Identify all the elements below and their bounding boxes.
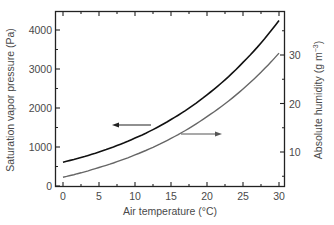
y2-tick-label: 10 — [289, 146, 301, 158]
x-tick-label: 10 — [129, 190, 141, 202]
x-tick-label: 25 — [237, 190, 249, 202]
x-tick-label: 15 — [165, 190, 177, 202]
arrow-left-icon — [112, 123, 119, 128]
y-tick-labels: 0 1000 2000 3000 4000 — [29, 24, 53, 192]
x-tick-label: 20 — [201, 190, 213, 202]
y2-tick-label: 20 — [289, 98, 301, 110]
x-axis-ticks — [63, 12, 279, 186]
y2-axis-ticks — [280, 31, 284, 177]
x-tick-labels: 0 5 10 15 20 25 30 — [60, 190, 285, 202]
y-tick-label: 1000 — [29, 141, 53, 153]
x-axis-label: Air temperature (°C) — [123, 205, 217, 217]
y-axis-label: Saturation vapor pressure (Pa) — [4, 28, 16, 172]
y-tick-label: 3000 — [29, 63, 53, 75]
absolute-humidity-curve — [63, 53, 279, 177]
chart: 0 5 10 15 20 25 30 0 1000 2000 3000 4000… — [0, 0, 334, 225]
y-tick-label: 4000 — [29, 24, 53, 36]
saturation-vapor-pressure-curve — [63, 20, 279, 162]
x-tick-label: 0 — [60, 190, 66, 202]
y2-axis-label: Absolute humidity (g m−3) — [312, 41, 324, 159]
x-tick-label: 5 — [96, 190, 102, 202]
right-arrow-annotation — [181, 132, 222, 137]
x-tick-label: 30 — [273, 190, 285, 202]
arrow-right-icon — [215, 132, 222, 137]
y2-tick-labels: 10 20 30 — [289, 49, 301, 158]
y2-tick-label: 30 — [289, 49, 301, 61]
left-arrow-annotation — [112, 123, 151, 128]
y-tick-label: 0 — [46, 180, 52, 192]
y-axis-ticks — [56, 30, 60, 186]
plot-frame — [56, 12, 285, 187]
y-tick-label: 2000 — [29, 102, 53, 114]
